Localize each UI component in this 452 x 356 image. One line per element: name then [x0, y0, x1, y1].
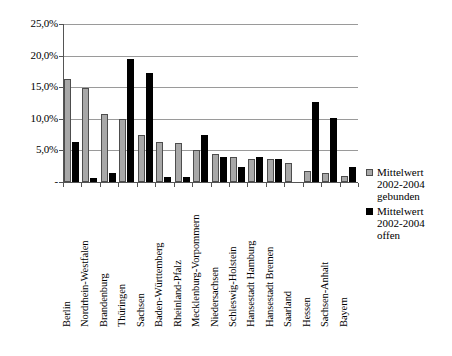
- x-axis-tick-mark: [229, 183, 230, 187]
- x-axis-category: Sachsen-Anhalt: [321, 188, 339, 316]
- bar-group: [340, 24, 358, 182]
- y-axis-tick-label: 5,0%: [10, 144, 58, 155]
- legend-swatch-gebunden-icon: [366, 169, 373, 176]
- bar-offen: [183, 177, 190, 182]
- y-axis-tick-mark: [59, 87, 64, 88]
- legend-label-line: Mittelwert: [377, 166, 452, 178]
- legend-label-line: 2002-2004: [377, 178, 452, 190]
- bar-offen: [72, 142, 79, 182]
- bar-offen: [349, 167, 356, 182]
- bar-gebunden: [119, 119, 126, 182]
- x-axis-tick-mark: [284, 183, 285, 187]
- x-axis-category-label: Rheinland-Pfalz: [172, 260, 183, 327]
- x-axis-tick-mark: [100, 183, 101, 187]
- bar-group: [247, 24, 265, 182]
- x-axis-tick-mark: [303, 183, 304, 187]
- legend-label-line: Mittelwert: [377, 205, 452, 217]
- bar-group: [100, 24, 118, 182]
- bar-gebunden: [64, 79, 71, 182]
- x-axis-category: Baden-Württemberg: [155, 188, 173, 316]
- x-axis-category-label: Sachsen: [135, 293, 146, 327]
- legend-swatch-offen-icon: [366, 208, 373, 215]
- bar-offen: [109, 173, 116, 182]
- bar-gebunden: [175, 143, 182, 182]
- bar-gebunden: [101, 114, 108, 182]
- x-axis-category: Bayern: [340, 188, 358, 316]
- x-axis-tick-mark: [340, 183, 341, 187]
- bar-gebunden: [156, 142, 163, 182]
- legend-label-line: gebunden: [377, 190, 452, 202]
- x-axis-category-label: Brandenburg: [98, 273, 109, 327]
- bar-chart: 25,0%20,0%15,0%10,0%5,0%- BerlinNordrhei…: [0, 0, 452, 356]
- bar-group: [229, 24, 247, 182]
- bar-gebunden: [322, 173, 329, 182]
- x-axis-category: Saarland: [284, 188, 302, 316]
- chart-legend: Mittelwert2002-2004gebundenMittelwert200…: [366, 166, 452, 244]
- x-axis-tick-mark: [211, 183, 212, 187]
- x-axis-category-label: Nordrhein-Westfalen: [79, 241, 90, 327]
- x-axis-tick-mark: [118, 183, 119, 187]
- x-axis-category-label: Mecklenburg-Vorpommern: [190, 215, 201, 327]
- bar-gebunden: [341, 176, 348, 182]
- bar-offen: [127, 59, 134, 182]
- y-axis-tick-label: -: [10, 176, 58, 187]
- x-axis-category-label: Hansestadt Hamburg: [245, 241, 256, 327]
- x-axis-tick-mark: [358, 183, 359, 187]
- bar-group: [321, 24, 339, 182]
- y-axis-tick-label: 15,0%: [10, 81, 58, 92]
- bar-offen: [238, 167, 245, 182]
- x-axis-tick-mark: [137, 183, 138, 187]
- bar-group: [118, 24, 136, 182]
- plot-area: [63, 24, 358, 182]
- bar-group: [284, 24, 302, 182]
- y-axis-tick-mark: [59, 119, 64, 120]
- x-axis-tick-mark: [247, 183, 248, 187]
- bar-gebunden: [138, 135, 145, 182]
- bar-offen: [312, 102, 319, 182]
- x-axis-category-label: Baden-Württemberg: [153, 243, 164, 327]
- y-axis-tick-label: 25,0%: [10, 18, 58, 29]
- bar-offen: [275, 159, 282, 182]
- x-axis-tick-mark: [174, 183, 175, 187]
- bar-group: [81, 24, 99, 182]
- x-axis-category-label: Schleswig-Holstein: [227, 247, 238, 327]
- x-axis-tick-mark: [81, 183, 82, 187]
- y-axis-tick-label: 20,0%: [10, 50, 58, 61]
- x-axis-category-label: Niedersachsen: [209, 267, 220, 327]
- y-axis-tick-mark: [59, 150, 64, 151]
- bar-offen: [220, 157, 227, 182]
- x-axis-category: Mecklenburg-Vorpommern: [192, 188, 210, 316]
- bar-group: [192, 24, 210, 182]
- x-axis-category-label: Bayern: [338, 297, 349, 327]
- bar-gebunden: [267, 159, 274, 182]
- y-axis-tick-mark: [59, 24, 64, 25]
- bar-gebunden: [248, 159, 255, 182]
- x-axis-tick-mark: [155, 183, 156, 187]
- x-axis-category-label: Saarland: [282, 291, 293, 327]
- legend-entry: Mittelwert2002-2004offen: [366, 205, 452, 241]
- y-axis-tick-mark: [59, 56, 64, 57]
- bar-offen: [256, 157, 263, 182]
- x-axis-tick-mark: [266, 183, 267, 187]
- bar-offen: [90, 178, 97, 182]
- legend-label-line: offen: [377, 229, 452, 241]
- x-axis-category-label: Hansestadt Bremen: [264, 247, 275, 327]
- bar-group: [174, 24, 192, 182]
- x-axis-category: Thüringen: [118, 188, 136, 316]
- x-axis-category-label: Sachsen-Anhalt: [319, 262, 330, 327]
- x-axis-tick-mark: [321, 183, 322, 187]
- y-axis: 25,0%20,0%15,0%10,0%5,0%-: [0, 0, 58, 356]
- x-axis-category-label: Berlin: [61, 301, 72, 327]
- legend-entry: Mittelwert2002-2004gebunden: [366, 166, 452, 202]
- bar-offen: [201, 135, 208, 182]
- legend-label-line: 2002-2004: [377, 217, 452, 229]
- bar-group: [155, 24, 173, 182]
- bar-gebunden: [212, 154, 219, 182]
- x-axis-tick-mark: [192, 183, 193, 187]
- y-axis-tick-label: 10,0%: [10, 113, 58, 124]
- bar-offen: [146, 73, 153, 182]
- bar-group: [303, 24, 321, 182]
- bar-group: [63, 24, 81, 182]
- bar-group: [266, 24, 284, 182]
- bar-gebunden: [304, 171, 311, 182]
